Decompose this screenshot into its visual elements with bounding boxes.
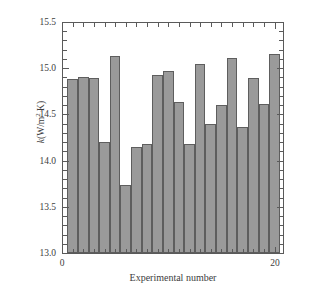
y-tick-minor [63, 40, 67, 41]
x-tick-minor [200, 249, 201, 253]
bar [120, 185, 131, 253]
x-tick-major [62, 247, 63, 253]
y-tick-minor [279, 77, 283, 78]
y-tick-minor [63, 235, 67, 236]
bar [67, 79, 78, 253]
bar [78, 77, 89, 253]
y-tick-minor [279, 188, 283, 189]
y-tick-minor [63, 87, 67, 88]
plot-area [62, 22, 283, 253]
y-tick-minor [279, 142, 283, 143]
x-tick-minor [179, 23, 180, 27]
x-tick-minor [147, 249, 148, 253]
x-tick-minor [190, 23, 191, 27]
x-tick-minor [126, 249, 127, 253]
bar-chart-figure: 13.013.514.014.515.015.5 020 k(W/m2 K) E… [0, 0, 313, 299]
x-tick-minor [253, 23, 254, 27]
x-tick-minor [221, 23, 222, 27]
y-tick-minor [63, 124, 67, 125]
y-tick-minor [63, 133, 67, 134]
y-tick-label: 13.5 [18, 202, 56, 212]
x-tick-minor [179, 249, 180, 253]
x-tick-minor [190, 249, 191, 253]
x-tick-minor [158, 23, 159, 27]
y-tick-minor [63, 142, 67, 143]
bar [163, 71, 174, 253]
y-tick-minor [279, 133, 283, 134]
y-tick-minor [279, 96, 283, 97]
x-tick-minor [136, 23, 137, 27]
y-tick-major [277, 68, 283, 69]
y-tick-minor [279, 216, 283, 217]
y-tick-label: 13.0 [18, 248, 56, 258]
y-tick-major [63, 68, 69, 69]
x-tick-minor [73, 23, 74, 27]
x-tick-major [62, 23, 63, 29]
y-tick-minor [63, 225, 67, 226]
bar [227, 58, 238, 253]
y-tick-minor [279, 105, 283, 106]
y-tick-major [63, 114, 69, 115]
y-tick-minor [63, 105, 67, 106]
x-tick-minor [136, 249, 137, 253]
bar [205, 124, 216, 253]
x-tick-label: 20 [255, 258, 295, 268]
bar [184, 144, 195, 253]
x-tick-minor [105, 249, 106, 253]
bar [195, 64, 206, 253]
y-tick-minor [279, 198, 283, 199]
x-axis-line-bottom [62, 253, 284, 254]
x-tick-minor [264, 23, 265, 27]
y-tick-major [63, 253, 69, 254]
x-tick-minor [200, 23, 201, 27]
x-tick-minor [211, 23, 212, 27]
bar [216, 105, 227, 253]
y-tick-minor [63, 31, 67, 32]
y-tick-minor [63, 50, 67, 51]
bar [99, 142, 110, 253]
x-tick-minor [115, 23, 116, 27]
x-tick-minor [253, 249, 254, 253]
bar [89, 78, 100, 253]
x-tick-minor [94, 23, 95, 27]
y-tick-minor [279, 59, 283, 60]
x-tick-minor [211, 249, 212, 253]
y-tick-minor [63, 151, 67, 152]
y-tick-label: 15.5 [18, 17, 56, 27]
y-tick-minor [279, 124, 283, 125]
y-tick-major [277, 253, 283, 254]
x-tick-minor [83, 23, 84, 27]
y-axis-units-exponent: 2 [34, 113, 42, 117]
y-tick-minor [279, 244, 283, 245]
y-tick-minor [279, 40, 283, 41]
y-axis-units-head: (W/m [36, 117, 46, 139]
y-tick-minor [279, 225, 283, 226]
x-tick-minor [243, 23, 244, 27]
x-tick-minor [126, 23, 127, 27]
y-axis-title: k(W/m2 K) [34, 62, 46, 182]
x-tick-major [275, 247, 276, 253]
y-tick-minor [279, 87, 283, 88]
x-tick-minor [73, 249, 74, 253]
x-tick-minor [158, 249, 159, 253]
bar [248, 78, 259, 253]
bar [110, 56, 121, 253]
y-tick-minor [63, 179, 67, 180]
x-tick-minor [168, 249, 169, 253]
x-axis-title: Experimental number [62, 272, 284, 283]
y-tick-minor [279, 179, 283, 180]
x-tick-minor [83, 249, 84, 253]
y-tick-minor [63, 244, 67, 245]
bar [269, 54, 280, 253]
y-tick-major [277, 22, 283, 23]
x-tick-minor [168, 23, 169, 27]
x-tick-major [275, 23, 276, 29]
bar [142, 144, 153, 253]
y-tick-minor [279, 31, 283, 32]
y-tick-major [63, 22, 69, 23]
bar [237, 127, 248, 253]
y-tick-minor [279, 235, 283, 236]
y-axis-symbol: k [36, 139, 46, 143]
y-tick-minor [63, 59, 67, 60]
x-tick-minor [94, 249, 95, 253]
